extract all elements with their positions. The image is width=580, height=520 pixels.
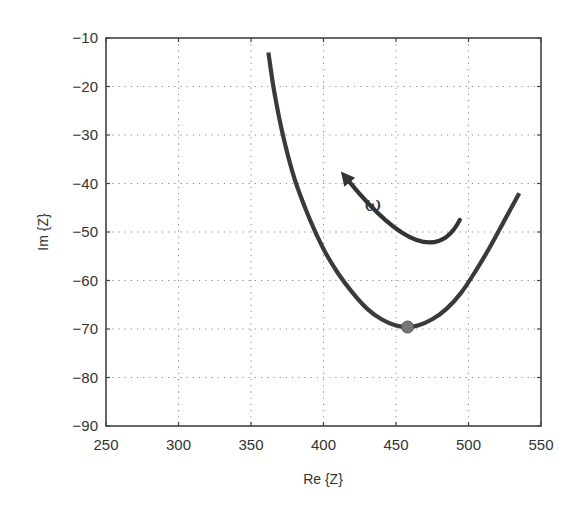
x-tick-label: 450 [383,436,408,453]
x-tick-label: 550 [528,436,553,453]
x-tick-label: 500 [456,436,481,453]
x-tick-label: 250 [93,436,118,453]
y-axis-ticks: −10−20−30−40−50−60−70−80−90 [73,29,541,434]
x-tick-label: 350 [238,436,263,453]
y-tick-label: −10 [73,29,98,46]
x-tick-label: 400 [311,436,336,453]
marker-dot [402,321,414,333]
y-axis-label: Im {Z} [35,213,51,251]
y-tick-label: −60 [73,272,98,289]
y-tick-label: −90 [73,417,98,434]
nyquist-chart: 250300350400450500550 −10−20−30−40−50−60… [0,0,580,520]
y-tick-label: −70 [73,320,98,337]
y-tick-label: −40 [73,175,98,192]
minimum-marker [402,321,414,333]
y-tick-label: −80 [73,369,98,386]
y-tick-label: −20 [73,78,98,95]
y-tick-label: −50 [73,223,98,240]
impedance-curve [268,53,519,328]
y-tick-label: −30 [73,126,98,143]
series-line [268,53,519,328]
grid-lines [106,38,541,426]
x-axis-label: Re {Z} [303,471,343,487]
omega-label: ω [365,192,381,216]
x-tick-label: 300 [166,436,191,453]
